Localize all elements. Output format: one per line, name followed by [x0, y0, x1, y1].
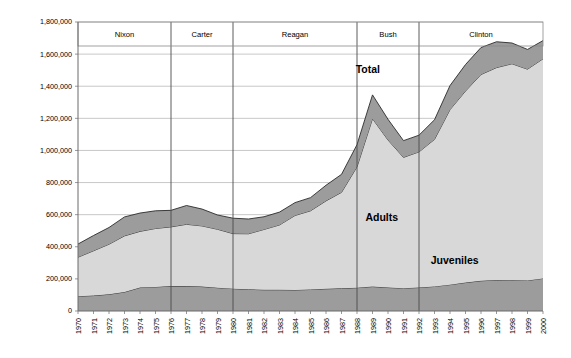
x-axis-tick-label: 1975: [152, 318, 161, 334]
y-axis-tick-label: 1,400,000: [40, 82, 72, 91]
x-axis-tick-label: 1973: [121, 318, 130, 334]
period-label-reagan: Reagan: [282, 30, 309, 39]
x-axis-tick-label: 1980: [229, 318, 238, 334]
y-axis-tick-label: 1,000,000: [40, 146, 72, 155]
y-axis-tick-label: 1,800,000: [40, 17, 72, 26]
series-label-total: Total: [356, 63, 380, 75]
chart-canvas: 1,800,0001,600,0001,400,0001,200,0001,00…: [0, 0, 571, 358]
series-label-juveniles: Juveniles: [431, 254, 479, 266]
x-axis-tick-label: 1984: [291, 318, 300, 334]
x-axis-tick-label: 1978: [198, 318, 207, 334]
x-axis-tick-labels: 1970197119721973197419751976197719781979…: [74, 318, 548, 334]
x-axis-tick-label: 1985: [307, 318, 316, 334]
y-axis-tick-label: 1,600,000: [40, 50, 72, 59]
x-axis-tick-label: 1994: [446, 318, 455, 334]
x-axis-tick-label: 1987: [338, 318, 347, 334]
x-axis-tick-label: 1991: [400, 318, 409, 334]
x-axis-tick-label: 1989: [369, 318, 378, 334]
x-axis-tick-label: 1990: [384, 318, 393, 334]
y-axis-tick-label: 400,000: [46, 242, 72, 251]
series-label-adults: Adults: [365, 211, 398, 223]
x-axis-tick-label: 1971: [90, 318, 99, 334]
x-axis-tick-label: 1970: [74, 318, 83, 334]
y-axis-tick-label: 1,200,000: [40, 114, 72, 123]
y-axis-tick-label: 0: [68, 306, 72, 315]
period-label-bush: Bush: [379, 30, 396, 39]
x-axis-tick-label: 1992: [415, 318, 424, 334]
x-axis-tick-label: 1979: [214, 318, 223, 334]
y-axis-tick-labels: 1,800,0001,600,0001,400,0001,200,0001,00…: [40, 17, 72, 315]
x-axis-tick-label: 1986: [322, 318, 331, 334]
x-axis-tick-label: 1997: [493, 318, 502, 334]
y-axis-tick-label: 200,000: [46, 274, 72, 283]
x-axis-tick-label: 1995: [462, 318, 471, 334]
x-axis-tick-label: 1998: [508, 318, 517, 334]
y-axis-tick-label: 800,000: [46, 178, 72, 187]
x-axis-tick-label: 1982: [260, 318, 269, 334]
period-label-nixon: Nixon: [115, 30, 134, 39]
x-axis-tick-label: 1999: [524, 318, 533, 334]
x-axis-tick-label: 1972: [105, 318, 114, 334]
x-axis-tick-label: 1996: [477, 318, 486, 334]
x-axis-tick-label: 1983: [276, 318, 285, 334]
y-axis-tick-label: 600,000: [46, 210, 72, 219]
x-axis-tick-label: 1981: [245, 318, 254, 334]
x-axis-tick-label: 1993: [431, 318, 440, 334]
x-axis-tick-label: 1976: [167, 318, 176, 334]
x-axis-tick-label: 1974: [136, 318, 145, 334]
stacked-area-chart: 1,800,0001,600,0001,400,0001,200,0001,00…: [0, 0, 571, 358]
x-axis-tick-label: 1988: [353, 318, 362, 334]
period-label-clinton: Clinton: [469, 30, 493, 39]
x-axis-tick-label: 1977: [183, 318, 192, 334]
x-axis-tick-label: 2000: [539, 318, 548, 334]
period-label-carter: Carter: [191, 30, 213, 39]
